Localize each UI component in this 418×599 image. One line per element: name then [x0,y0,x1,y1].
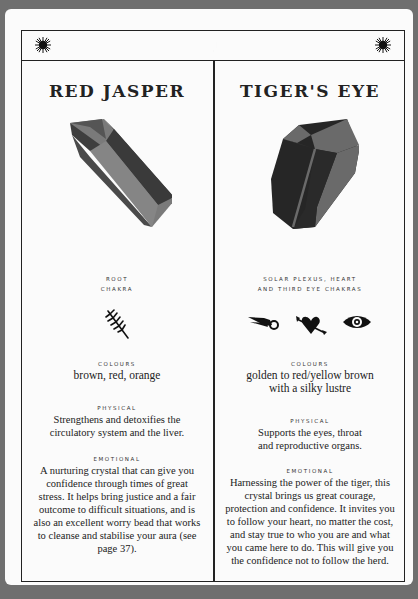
eye-icon [342,314,372,330]
colours-section: COLOURS golden to red/yellow brown with … [215,359,405,395]
root-branch-icon [104,308,130,340]
heart-arrow-icon [294,314,328,336]
chakra-icons [22,308,212,340]
crystal-column-red-jasper: RED JASPER ROOT CHAKRA [22,61,212,581]
sun-icon [35,37,51,53]
chakra-label: SOLAR PLEXUS, HEART AND THIRD EYE CHAKRA… [215,274,405,294]
emotional-section: EMOTIONAL A nurturing crystal that can g… [22,454,212,555]
top-decoration-bar [22,31,404,61]
crystal-title: TIGER'S EYE [215,80,405,102]
colours-section: COLOURS brown, red, orange [22,359,212,382]
tigers-eye-crystal-image [255,109,365,229]
physical-section: PHYSICAL Strengthens and detoxifies the … [22,403,212,439]
chakra-icons [215,314,405,336]
comet-icon [248,314,280,332]
physical-section: PHYSICAL Supports the eyes, throat and r… [215,416,405,452]
crescent-moon-icon [204,36,222,54]
chakra-label: ROOT CHAKRA [22,274,212,294]
sun-icon [375,37,391,53]
card-frame: RED JASPER ROOT CHAKRA [21,30,405,582]
emotional-section: EMOTIONAL Harnessing the power of the ti… [215,466,405,567]
crystal-title: RED JASPER [22,80,212,102]
page: RED JASPER ROOT CHAKRA [5,9,413,585]
red-jasper-crystal-image [62,109,172,229]
crystal-column-tigers-eye: TIGER'S EYE SOLAR PLEXUS, HEART AND THIR… [215,61,405,581]
